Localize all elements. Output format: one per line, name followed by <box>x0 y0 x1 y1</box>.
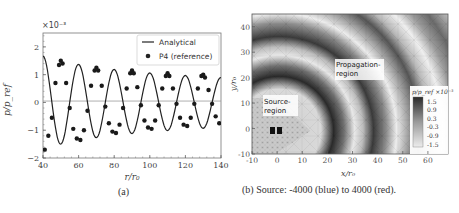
y-tick-label: 30 <box>240 48 250 57</box>
x-tick-label: 120 <box>178 161 193 170</box>
y-tick-label: −1 <box>27 126 39 135</box>
x-tick-label: 100 <box>142 161 157 170</box>
data-marker <box>171 86 175 90</box>
x-tick-label: 30 <box>348 156 358 165</box>
data-marker <box>192 102 196 106</box>
data-marker <box>82 128 86 132</box>
x-tick-label: 60 <box>423 156 433 165</box>
data-marker <box>121 106 125 110</box>
data-marker <box>46 134 50 138</box>
y-axis-label: y/r₀ <box>230 76 238 92</box>
data-marker <box>185 124 189 128</box>
data-marker <box>149 127 153 131</box>
y-tick-label: 2 <box>34 43 39 52</box>
data-marker <box>96 68 100 72</box>
data-marker <box>142 118 146 122</box>
source-point-2 <box>277 127 282 134</box>
data-marker <box>100 84 104 88</box>
colorbar: p/p_ref ×10⁻³ 1.50.90.3-0.3-0.9-1.5 <box>410 86 454 154</box>
field-plot-svg: Source- region Propagation- region p/p_r… <box>230 0 459 213</box>
data-marker <box>189 116 193 120</box>
y-tick-label: 40 <box>240 23 250 32</box>
line-chart-svg: 406080100120140−2−1012 ×10⁻³ p/p_ref r/r… <box>0 0 230 213</box>
caption-a: (a) <box>118 186 129 197</box>
y-exponent-label: ×10⁻³ <box>42 21 66 30</box>
colorbar-tick-label: 0.9 <box>427 106 437 113</box>
data-marker <box>71 127 75 131</box>
svg-text:Source-: Source- <box>264 98 291 106</box>
data-marker <box>124 86 128 90</box>
data-marker <box>103 104 107 108</box>
colorbar-gradient <box>413 97 423 147</box>
x-tick-label: 50 <box>398 156 408 165</box>
propagation-region-label: Propagation- region <box>335 59 384 80</box>
x-tick-label: 140 <box>213 161 228 170</box>
data-marker <box>157 103 161 107</box>
data-marker <box>60 61 64 65</box>
x-tick-label: 60 <box>74 161 84 170</box>
x-tick-label: 40 <box>38 161 48 170</box>
x-axis-label: r/r₀ <box>124 172 140 182</box>
data-marker <box>68 106 72 110</box>
source-point-1 <box>270 127 275 134</box>
x-tick-label: 0 <box>275 156 280 165</box>
panel-a-line-chart: 406080100120140−2−1012 ×10⁻³ p/p_ref r/r… <box>0 0 230 213</box>
data-marker <box>43 147 47 151</box>
data-marker <box>107 121 111 125</box>
data-marker <box>167 74 171 78</box>
svg-text:Propagation-: Propagation- <box>336 61 381 69</box>
data-marker <box>153 118 157 122</box>
colorbar-title: p/p_ref ×10⁻³ <box>412 88 454 96</box>
colorbar-tick-label: 0.3 <box>427 115 437 122</box>
y-tick-label: 1 <box>34 71 39 80</box>
svg-text:region: region <box>264 107 286 115</box>
y-tick-label: 20 <box>240 74 250 83</box>
svg-text:region: region <box>336 70 358 78</box>
legend-p4: P4 (reference) <box>159 52 212 61</box>
data-marker <box>64 81 68 85</box>
x-tick-label: 40 <box>373 156 383 165</box>
legend-dot-icon <box>146 54 151 59</box>
data-marker <box>217 121 221 125</box>
y-axis-label: p/p_ref <box>2 82 13 116</box>
data-marker <box>174 102 178 106</box>
colorbar-tick-label: -0.9 <box>427 132 439 139</box>
data-marker <box>206 88 210 92</box>
data-marker <box>132 71 136 75</box>
data-marker <box>203 75 207 79</box>
colorbar-tick-label: 1.5 <box>427 98 437 105</box>
x-tick-label: 10 <box>297 156 307 165</box>
data-marker <box>53 81 57 85</box>
caption-b: (b) Source: -4000 (blue) to 4000 (red). <box>242 184 396 195</box>
data-marker <box>114 131 118 135</box>
data-marker <box>89 84 93 88</box>
data-marker <box>178 116 182 120</box>
data-marker <box>196 86 200 90</box>
x-tick-label: 20 <box>323 156 333 165</box>
data-marker <box>117 122 121 126</box>
y-tick-label: 0 <box>245 125 250 134</box>
y-tick-label: 0 <box>34 98 39 107</box>
y-tick-label: -10 <box>238 150 250 159</box>
data-marker <box>139 103 143 107</box>
legend: Analytical P4 (reference) <box>137 35 219 65</box>
x-tick-label: 80 <box>109 161 119 170</box>
colorbar-tick-label: -0.3 <box>427 123 439 130</box>
data-marker <box>50 116 54 120</box>
panel-b-field-plot: Source- region Propagation- region p/p_r… <box>230 0 459 213</box>
data-marker <box>210 102 214 106</box>
data-marker <box>160 86 164 90</box>
colorbar-tick-label: -1.5 <box>427 141 439 148</box>
data-marker <box>85 109 89 113</box>
data-marker <box>135 85 139 89</box>
y-tick-label: −2 <box>27 154 39 163</box>
data-marker <box>213 114 217 118</box>
y-tick-label: 10 <box>240 99 250 108</box>
legend-analytical: Analytical <box>159 38 196 47</box>
x-axis-label: x/r₀ <box>341 169 356 178</box>
source-region-label: Source- region <box>263 95 298 116</box>
data-marker <box>78 138 82 142</box>
